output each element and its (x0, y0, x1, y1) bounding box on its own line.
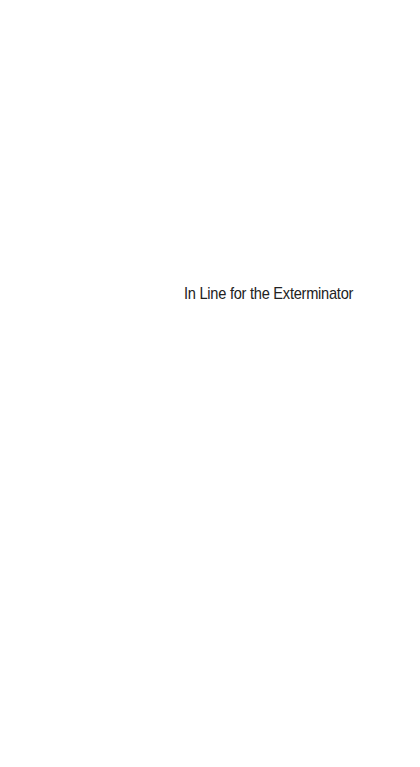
half-title: In Line for the Exterminator (184, 284, 353, 304)
book-page: In Line for the Exterminator (0, 0, 420, 767)
